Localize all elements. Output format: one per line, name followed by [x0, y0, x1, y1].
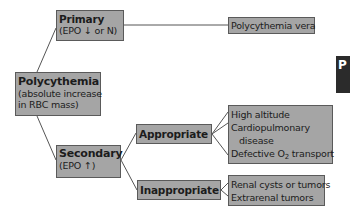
cause-defective-o2-part1: Defective O	[231, 148, 285, 159]
primary-node: Primary (EPO ↓ or N)	[56, 10, 124, 41]
root-subtitle-line2: in RBC mass)	[18, 99, 98, 110]
appropriate-causes-node: High altitude Cardiopulmonary disease De…	[228, 105, 333, 164]
inappropriate-title: Inappropriate	[140, 184, 218, 196]
cause-high-altitude: High altitude	[231, 108, 330, 121]
inappropriate-node: Inappropriate	[137, 180, 221, 200]
appropriate-node: Appropriate	[136, 124, 212, 144]
link-secondary-inappropriate	[121, 160, 137, 190]
primary-title: Primary	[59, 13, 121, 25]
root-subtitle-line1: (absolute increase	[18, 88, 98, 99]
cause-cardiopulmonary-cont: disease	[231, 134, 330, 147]
link-root-primary	[37, 28, 56, 72]
secondary-node: Secondary (EPO ↑)	[56, 145, 121, 178]
link-appropriate-cause3	[212, 134, 228, 155]
cause-renal-cysts: Renal cysts or tumors	[231, 178, 322, 191]
cause-defective-o2-transport: Defective O2 transport	[231, 147, 330, 160]
link-inappropriate-cause1	[221, 183, 228, 190]
appropriate-title: Appropriate	[139, 128, 209, 140]
polycythemia-vera-node: Polycythemia vera	[228, 17, 315, 34]
secondary-subtitle: (EPO ↑)	[59, 160, 118, 171]
link-appropriate-cause2	[212, 123, 228, 134]
secondary-title: Secondary	[59, 148, 118, 160]
cause-defective-o2-part2: transport	[289, 148, 334, 159]
root-title: Polycythemia	[18, 76, 98, 88]
polycythemia-vera-label: Polycythemia vera	[231, 20, 312, 31]
link-secondary-appropriate	[121, 133, 136, 160]
link-inappropriate-cause2	[221, 190, 228, 196]
link-appropriate-cause1	[212, 112, 228, 134]
link-root-secondary	[37, 116, 56, 160]
root-node: Polycythemia (absolute increase in RBC m…	[15, 72, 101, 116]
primary-subtitle: (EPO ↓ or N)	[59, 25, 121, 36]
cause-extrarenal-tumors: Extrarenal tumors	[231, 191, 322, 204]
inappropriate-causes-node: Renal cysts or tumors Extrarenal tumors	[228, 175, 325, 206]
section-tab[interactable]: P	[336, 56, 350, 93]
cause-cardiopulmonary: Cardiopulmonary	[231, 121, 330, 134]
